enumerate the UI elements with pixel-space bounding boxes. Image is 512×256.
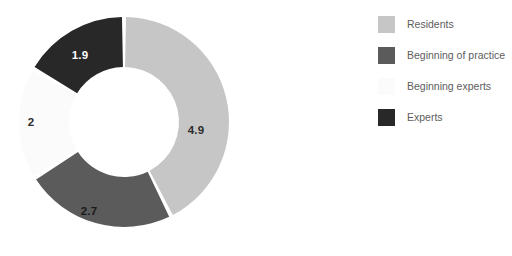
donut-slice-value-label: 2.7: [81, 205, 98, 217]
legend-item[interactable]: Beginning experts: [378, 71, 512, 102]
legend-item-label: Beginning experts: [407, 81, 491, 92]
donut-chart-svg: 4.92.721.9: [0, 0, 260, 256]
donut-slices-group: [19, 17, 229, 227]
donut-chart-page: 4.92.721.9 ResidentsBeginning of practic…: [0, 0, 512, 256]
legend-item[interactable]: Beginning of practice: [378, 40, 512, 71]
chart-legend: ResidentsBeginning of practiceBeginning …: [378, 9, 512, 133]
legend-color-swatch: [378, 16, 395, 33]
donut-slice-value-label: 4.9: [188, 124, 205, 136]
legend-item-label: Residents: [407, 19, 454, 30]
donut-slice-value-label: 2: [28, 116, 35, 128]
donut-slice-value-label: 1.9: [72, 49, 89, 61]
legend-item[interactable]: Experts: [378, 102, 512, 133]
donut-slice[interactable]: [36, 152, 169, 227]
legend-color-swatch: [378, 78, 395, 95]
legend-item-label: Experts: [407, 112, 443, 123]
legend-item[interactable]: Residents: [378, 9, 512, 40]
chart-area: 4.92.721.9: [0, 0, 260, 256]
legend-item-label: Beginning of practice: [407, 50, 505, 61]
legend-color-swatch: [378, 47, 395, 64]
legend-color-swatch: [378, 109, 395, 126]
